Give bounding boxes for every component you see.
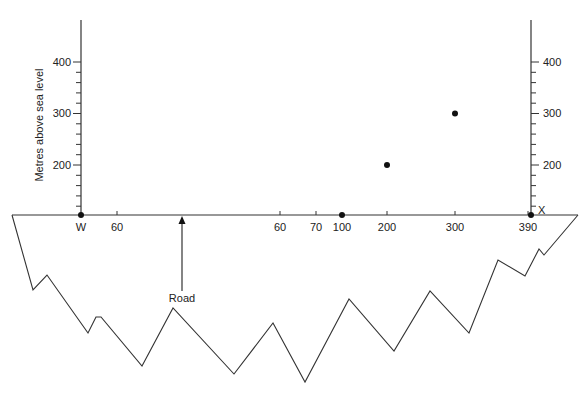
label-100: 100 — [333, 221, 351, 233]
plotted-points — [78, 111, 534, 219]
y-axis-title: Metres above sea level — [33, 68, 45, 181]
left-tick-300: 300 — [53, 107, 71, 119]
right-tick-400: 400 — [543, 56, 561, 68]
label-w: W — [76, 221, 87, 233]
label-x: X — [538, 204, 546, 216]
right-tick-200: 200 — [543, 159, 561, 171]
right-tick-300: 300 — [543, 107, 561, 119]
label-200: 200 — [378, 221, 396, 233]
point-x — [528, 212, 534, 218]
point-300 — [452, 111, 458, 117]
cross-section-diagram: 400 300 200 Metres above sea level 400 3… — [0, 0, 588, 393]
label-60-a: 60 — [111, 221, 123, 233]
road-arrow-icon — [179, 216, 186, 291]
label-300: 300 — [446, 221, 464, 233]
right-y-axis — [531, 20, 539, 215]
point-200 — [384, 162, 390, 168]
point-100 — [339, 212, 345, 218]
left-y-axis — [73, 20, 81, 215]
left-tick-400: 400 — [53, 56, 71, 68]
point-w — [78, 212, 84, 218]
label-70: 70 — [310, 221, 322, 233]
road-label: Road — [169, 292, 195, 304]
label-390: 390 — [519, 221, 537, 233]
left-tick-200: 200 — [53, 159, 71, 171]
label-60-b: 60 — [274, 221, 286, 233]
map-paper-edge — [12, 215, 578, 382]
